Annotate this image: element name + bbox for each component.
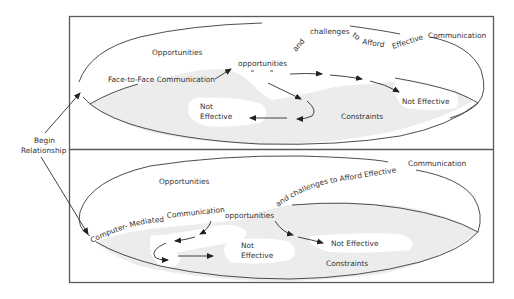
arrow-right-1	[290, 74, 322, 75]
center-opportunities-label: opportunities	[238, 59, 287, 68]
word-afford: Afford	[362, 37, 386, 49]
arrow-to-face-to-face	[45, 93, 80, 133]
loop-left-edge	[79, 212, 90, 236]
word-communication: Communication	[408, 159, 467, 168]
relationship-label: Relationship	[21, 146, 67, 155]
opportunities-label: Opportunities	[159, 177, 210, 186]
start-label-part2: Communication	[166, 205, 225, 220]
panel-face-to-face: Opportunities Face-to-Face Communication…	[79, 23, 487, 145]
not-effective-left-line1: Not	[200, 102, 213, 111]
arrow-to-computer-mediated	[41, 157, 88, 234]
begin-relationship: Begin Relationship	[21, 93, 88, 234]
start-label: Face-to-Face Communication	[108, 75, 215, 84]
not-effective-left-line2: Effective	[241, 251, 274, 260]
word-effective: Effective	[391, 32, 425, 51]
word-communication: Communication	[428, 31, 487, 40]
constraints-label: Constraints	[326, 259, 368, 268]
curved-phrase: and challenges to Afford Effective	[274, 165, 397, 208]
not-effective-right: Not Effective	[402, 97, 450, 106]
word-and: and	[291, 37, 307, 54]
panel-computer-mediated: Opportunities Computer- Mediated Communi…	[79, 156, 480, 281]
diagram-canvas: Opportunities Face-to-Face Communication…	[0, 0, 514, 299]
not-effective-left-line1: Not	[241, 241, 254, 250]
not-effective-right: Not Effective	[331, 239, 379, 248]
not-effective-left-line2: Effective	[200, 112, 233, 121]
center-opportunities-label: opportunities	[225, 211, 274, 220]
opportunities-label: Opportunities	[152, 48, 203, 57]
word-challenges: challenges	[310, 27, 350, 36]
constraints-label: Constraints	[341, 112, 383, 121]
begin-label: Begin	[34, 136, 55, 145]
word-to: to	[351, 30, 363, 42]
